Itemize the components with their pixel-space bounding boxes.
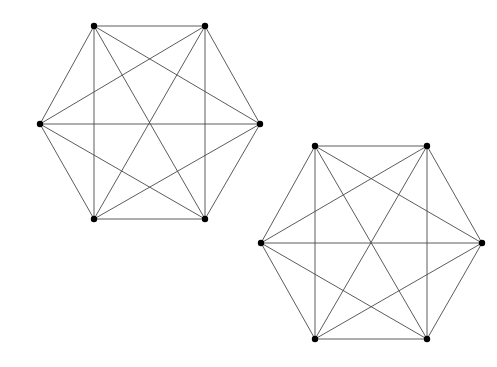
edge-top-right-right <box>205 26 260 124</box>
vertex-right <box>257 121 263 127</box>
vertex-bottom-right <box>202 216 208 222</box>
vertex-top-left <box>91 23 97 29</box>
graph-2-edges <box>261 146 482 339</box>
vertex-bottom-left <box>312 336 318 342</box>
vertex-top-right <box>202 23 208 29</box>
edge-right-bottom-left <box>94 124 260 219</box>
vertex-left <box>258 240 264 246</box>
edge-right-bottom-left <box>315 243 482 339</box>
k6-graph-1 <box>37 23 263 222</box>
edge-top-left-left <box>40 26 94 124</box>
graph-1-edges <box>40 26 260 219</box>
edge-left-bottom-left <box>261 243 315 339</box>
diagram-canvas <box>0 0 497 367</box>
edge-top-right-left <box>40 26 205 124</box>
vertex-top-left <box>312 143 318 149</box>
edge-right-bottom-right <box>205 124 260 219</box>
edge-right-bottom-right <box>427 243 482 339</box>
vertex-left <box>37 121 43 127</box>
edge-top-left-left <box>261 146 315 243</box>
edge-top-right-left <box>261 146 427 243</box>
edge-top-right-right <box>427 146 482 243</box>
vertex-top-right <box>424 143 430 149</box>
edge-left-bottom-left <box>40 124 94 219</box>
edge-left-bottom-right <box>40 124 205 219</box>
edge-left-bottom-right <box>261 243 427 339</box>
k6-graph-2 <box>258 143 485 342</box>
vertex-bottom-right <box>424 336 430 342</box>
vertex-bottom-left <box>91 216 97 222</box>
vertex-right <box>479 240 485 246</box>
